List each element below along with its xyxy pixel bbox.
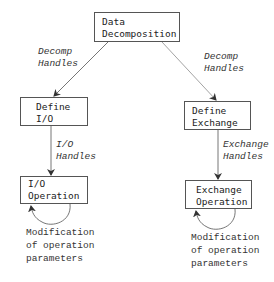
node-text: Define [36,101,87,113]
node-text: I/O [28,178,87,190]
note-text: of operation [26,239,94,252]
loop-note-right: Modification of operation parameters [191,231,259,270]
edge-label-text: Handles [56,151,96,163]
loop-note-left: Modification of operation parameters [26,226,94,265]
node-io-operation: I/O Operation [20,176,88,204]
edge-label-text: Handles [38,58,78,70]
node-text: Data [102,16,179,28]
node-text: Exchange [196,184,251,196]
edge-label-text: Exchange [223,139,269,151]
node-exchange-operation: Exchange Operation [185,180,252,209]
edge-label-decomp-left: Decomp Handles [38,46,78,70]
node-text: Exchange [192,117,250,129]
note-text: parameters [191,257,259,270]
node-data-decomposition: Data Decomposition [94,12,180,42]
edge-label-io-handles: I/O Handles [56,139,96,163]
loop-exchange-operation [196,209,235,229]
node-text: Operation [28,190,87,202]
edge-label-text: Handles [223,151,269,163]
note-text: parameters [26,252,94,265]
loop-io-operation [31,204,70,224]
edge-label-text: Decomp [204,51,244,63]
node-text: Define [192,105,250,117]
edge-label-text: Handles [204,63,244,75]
edge-label-exchange-handles: Exchange Handles [223,139,269,163]
node-text: I/O [36,113,87,125]
note-text: of operation [191,244,259,257]
edge-label-text: Decomp [38,46,78,58]
node-define-exchange: Define Exchange [184,101,251,130]
note-text: Modification [26,226,94,239]
node-define-io: Define I/O [20,97,88,126]
node-text: Decomposition [102,28,179,40]
note-text: Modification [191,231,259,244]
edge-label-text: I/O [56,139,96,151]
node-text: Operation [196,196,251,208]
edge-label-decomp-right: Decomp Handles [204,51,244,75]
